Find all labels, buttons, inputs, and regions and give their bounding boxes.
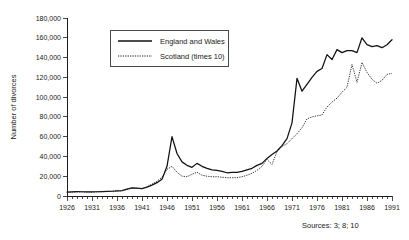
y-axis-title: Number of divorces bbox=[9, 74, 18, 139]
y-axis-tick-group: 020,00040,00060,00080,000100,000120,0001… bbox=[36, 15, 67, 200]
x-tick-label: 1961 bbox=[234, 204, 250, 211]
y-tick-label: 160,000 bbox=[36, 34, 61, 41]
x-tick-label: 1971 bbox=[284, 204, 300, 211]
x-tick-label: 1926 bbox=[59, 204, 75, 211]
y-tick-label: 0 bbox=[57, 193, 61, 200]
sources-note: Sources: 3; 8; 10 bbox=[302, 221, 359, 230]
x-tick-label: 1931 bbox=[84, 204, 100, 211]
y-tick-label: 60,000 bbox=[40, 133, 62, 140]
x-axis-minor-tick-group bbox=[67, 196, 392, 201]
legend-label-england-and-wales: England and Wales bbox=[160, 37, 225, 46]
x-tick-label: 1946 bbox=[159, 204, 175, 211]
y-tick-label: 20,000 bbox=[40, 173, 62, 180]
x-tick-label: 1956 bbox=[209, 204, 225, 211]
y-tick-label: 180,000 bbox=[36, 15, 61, 22]
chart-canvas: 020,00040,00060,00080,000100,000120,0001… bbox=[0, 0, 409, 240]
y-tick-label: 80,000 bbox=[40, 113, 62, 120]
y-tick-label: 40,000 bbox=[40, 153, 62, 160]
x-tick-label: 1966 bbox=[259, 204, 275, 211]
divorces-line-chart: 020,00040,00060,00080,000100,000120,0001… bbox=[0, 0, 409, 240]
x-tick-label: 1951 bbox=[184, 204, 200, 211]
x-axis-tick-group: 1926193119361941194619511956196119661971… bbox=[59, 204, 400, 211]
y-tick-label: 100,000 bbox=[36, 94, 61, 101]
x-tick-label: 1991 bbox=[384, 204, 400, 211]
legend-label-scotland: Scotland (times 10) bbox=[160, 52, 225, 61]
x-tick-label: 1941 bbox=[134, 204, 150, 211]
y-tick-label: 140,000 bbox=[36, 54, 61, 61]
x-tick-label: 1936 bbox=[109, 204, 125, 211]
x-tick-label: 1981 bbox=[334, 204, 350, 211]
legend: England and Wales Scotland (times 10) bbox=[110, 30, 228, 66]
x-tick-label: 1986 bbox=[359, 204, 375, 211]
y-tick-label: 120,000 bbox=[36, 74, 61, 81]
x-tick-label: 1976 bbox=[309, 204, 325, 211]
